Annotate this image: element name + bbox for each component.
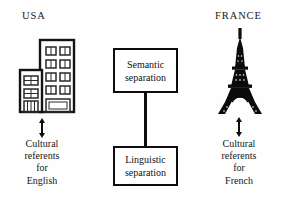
caption-left-line-1: Cultural (0, 138, 87, 150)
caption-cultural-referents-english: Cultural referents for English (0, 138, 87, 187)
clipped-header-band (0, 0, 281, 5)
caption-right-line-2: referents (194, 150, 281, 162)
eiffel-tower-icon (212, 28, 268, 116)
box-linguistic-line-1: Linguistic (122, 153, 169, 166)
double-headed-arrow-right (233, 117, 245, 137)
caption-right-line-4: French (194, 175, 281, 187)
caption-left-line-2: referents (0, 150, 87, 162)
office-building-icon (18, 38, 76, 114)
box-semantic-line-1: Semantic (122, 58, 169, 71)
box-linguistic-separation: Linguistic separation (113, 146, 178, 186)
caption-left-line-3: for (0, 162, 87, 174)
connector-line (144, 92, 147, 147)
country-label-usa: USA (22, 10, 46, 21)
caption-right-line-1: Cultural (194, 138, 281, 150)
box-semantic-line-2: separation (122, 71, 169, 84)
diagram-canvas: USA (0, 0, 281, 201)
caption-left-line-4: English (0, 175, 87, 187)
caption-cultural-referents-french: Cultural referents for French (194, 138, 281, 187)
box-linguistic-line-2: separation (122, 166, 169, 179)
country-label-france: FRANCE (215, 10, 262, 21)
double-headed-arrow-left (36, 118, 48, 138)
box-semantic-separation: Semantic separation (113, 48, 178, 93)
caption-right-line-3: for (194, 162, 281, 174)
